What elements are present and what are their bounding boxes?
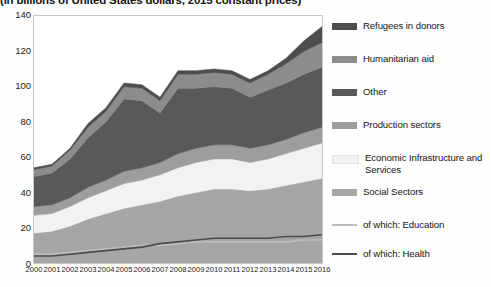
legend-swatch-icon xyxy=(332,89,357,96)
legend-label: Humanitarian aid xyxy=(363,53,434,65)
legend-swatch-icon xyxy=(332,155,359,164)
y-tick-label: 20 xyxy=(5,223,31,233)
legend-item[interactable]: Refugees in donors xyxy=(332,20,490,32)
legend-swatch-icon xyxy=(332,122,357,129)
chart-legend: Refugees in donorsHumanitarian aidOtherP… xyxy=(332,14,490,264)
legend-label: Other xyxy=(363,86,387,98)
x-tick-label: 2016 xyxy=(308,265,336,275)
legend-label: Production sectors xyxy=(363,119,441,131)
y-tick-label: 120 xyxy=(5,46,31,56)
legend-swatch-icon xyxy=(332,56,357,63)
legend-item[interactable]: of which: Education xyxy=(332,219,490,231)
legend-label: of which: Health xyxy=(363,248,430,260)
x-axis: 2000200120022003200420052006200720082009… xyxy=(33,265,323,283)
legend-item[interactable]: Economic Infrastructure and Services xyxy=(332,152,490,176)
y-axis: 020406080100120140 xyxy=(2,0,31,287)
legend-item[interactable]: Production sectors xyxy=(332,119,490,131)
y-tick-label: 140 xyxy=(5,10,31,20)
legend-label: Social Sectors xyxy=(363,186,423,198)
stacked-area-plot xyxy=(34,16,322,263)
chart-figure: (in billions of United States dollars, 2… xyxy=(0,0,491,287)
y-tick-label: 40 xyxy=(5,188,31,198)
legend-item[interactable]: Other xyxy=(332,86,490,98)
legend-item[interactable]: of which: Health xyxy=(332,248,490,260)
legend-item[interactable]: Social Sectors xyxy=(332,186,490,198)
legend-swatch-icon xyxy=(332,224,357,226)
legend-label: Refugees in donors xyxy=(363,20,444,32)
y-tick-label: 80 xyxy=(5,117,31,127)
plot-area xyxy=(33,15,323,264)
y-tick-label: 60 xyxy=(5,152,31,162)
legend-label: Economic Infrastructure and Services xyxy=(365,152,490,176)
chart-title: (in billions of United States dollars, 2… xyxy=(0,0,340,7)
legend-swatch-icon xyxy=(332,23,357,30)
legend-swatch-icon xyxy=(332,253,357,255)
legend-swatch-icon xyxy=(332,189,357,196)
legend-item[interactable]: Humanitarian aid xyxy=(332,53,490,65)
legend-label: of which: Education xyxy=(363,219,444,231)
y-tick-label: 100 xyxy=(5,81,31,91)
